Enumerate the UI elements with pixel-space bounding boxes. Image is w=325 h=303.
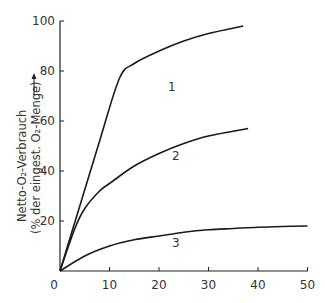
chart: 20406080100 01020304050 123 Netto-O₂-Ver…: [0, 0, 325, 303]
curve-label-3: 3: [172, 236, 180, 250]
x-tick-label: 30: [201, 278, 216, 292]
y-tick-label: 80: [40, 64, 55, 78]
x-tick-label: 50: [300, 278, 315, 292]
y-label-line2: (% der eingest. O₂-Menge): [29, 81, 43, 234]
curve-label-1: 1: [168, 80, 176, 94]
y-axis-label: Netto-O₂-Verbrauch (% der eingest. O₂-Me…: [15, 81, 43, 234]
x-tick-label: 10: [102, 278, 117, 292]
x-tick-label: 40: [250, 278, 265, 292]
curve-1: [60, 26, 243, 271]
x-tick-label: 20: [151, 278, 166, 292]
curve-label-2: 2: [172, 149, 180, 163]
y-label-line1: Netto-O₂-Verbrauch: [15, 110, 29, 222]
y-tick-label: 100: [32, 14, 55, 28]
x-tick-label: 0: [50, 278, 58, 292]
curve-2: [60, 129, 248, 272]
curve-3: [60, 226, 308, 271]
